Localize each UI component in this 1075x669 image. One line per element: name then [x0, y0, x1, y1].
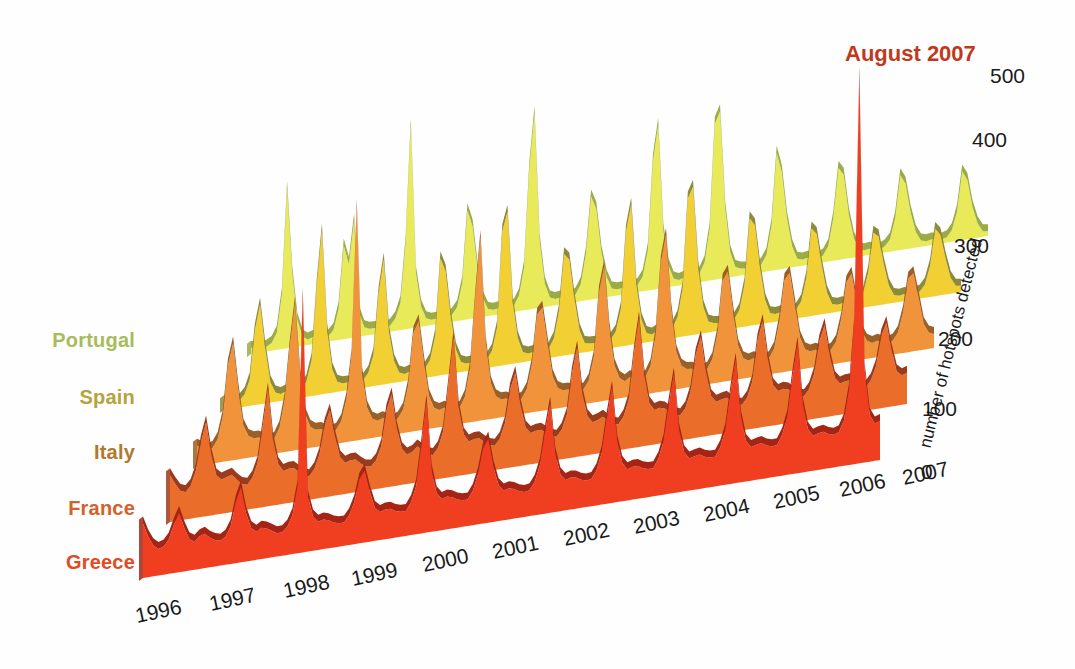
series-endcap-france	[166, 468, 170, 525]
series-endcap-greece	[139, 516, 143, 581]
series-endcap-portugal	[247, 341, 251, 357]
y-tick-100: 100	[922, 397, 957, 421]
series-label-spain: Spain	[55, 386, 135, 409]
series-label-spain-text: Spain	[80, 386, 135, 408]
y-tick-500: 500	[990, 64, 1025, 88]
y-tick-300: 300	[954, 234, 989, 258]
chart-canvas: Portugal Spain Italy France Greece numbe…	[0, 0, 1075, 669]
series-label-greece-text: Greece	[66, 551, 135, 573]
series-label-france-text: France	[68, 497, 135, 519]
y-tick-200: 200	[938, 327, 973, 351]
series-label-italy: Italy	[72, 441, 135, 464]
series-label-portugal-text: Portugal	[52, 329, 135, 351]
series-ribbons-group	[139, 66, 988, 581]
series-label-italy-text: Italy	[94, 441, 135, 463]
y-tick-400: 400	[972, 128, 1007, 152]
series-label-portugal: Portugal	[22, 329, 135, 352]
ridgeline-chart-svg	[0, 0, 1075, 669]
series-label-france: France	[40, 497, 135, 520]
august-2007-annotation: August 2007	[845, 41, 976, 67]
series-label-greece: Greece	[42, 551, 135, 574]
